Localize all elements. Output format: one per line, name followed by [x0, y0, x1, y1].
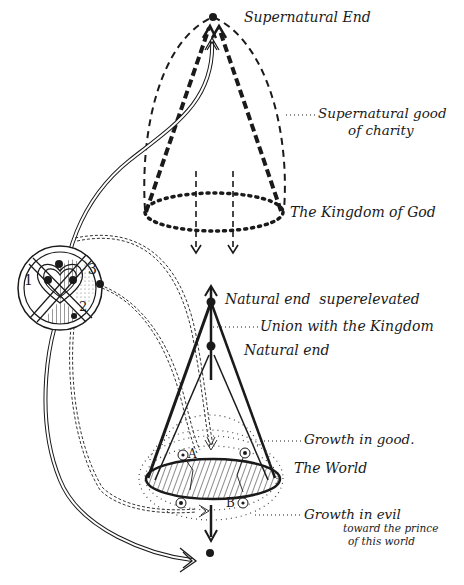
natural-end-dot — [207, 342, 216, 351]
supernatural-end-label: Supernatural End — [244, 10, 371, 24]
union-with-kingdom-label: Union with the Kingdom — [260, 319, 434, 333]
point-b-label: B — [226, 497, 235, 509]
kingdom-of-god-label: The Kingdom of God — [290, 205, 436, 219]
natural-end-superelevated-dot — [207, 298, 216, 307]
natural-end-label: Natural end — [244, 343, 329, 357]
prince-label-line2: toward the prince — [343, 523, 438, 534]
point-a-label: A — [188, 448, 197, 460]
the-world-label: The World — [294, 461, 367, 475]
zone-1-label: 1 — [24, 273, 33, 287]
supernatural-good-label: Supernatural good — [318, 107, 447, 121]
zone-3-label: 3 — [88, 262, 97, 276]
prince-of-world-dot — [206, 549, 214, 557]
world-base — [146, 459, 280, 499]
heart-emblem — [18, 246, 104, 330]
natural-end-superelevated-label: Natural end superelevated — [225, 292, 420, 306]
prince-label-line3: of this world — [348, 536, 415, 547]
supernatural-good-label-line2: of charity — [348, 124, 414, 138]
growth-in-evil-label: Growth in evil — [304, 508, 401, 522]
zone-2-label: 2 — [79, 300, 87, 313]
path-to-evil — [46, 290, 196, 572]
growth-in-good-label: Growth in good. — [304, 433, 414, 447]
kingdom-of-god-base — [145, 193, 283, 231]
supernatural-end-dot — [209, 13, 217, 21]
